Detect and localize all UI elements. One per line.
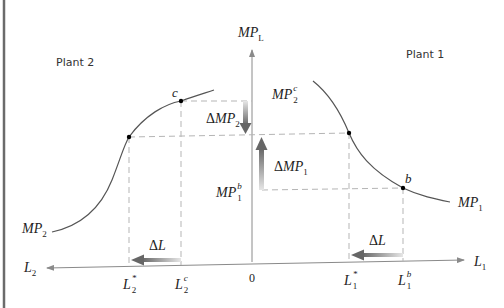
point-c bbox=[179, 99, 183, 103]
origin-label: 0 bbox=[249, 272, 255, 284]
l2-star-tick-label: L*2 bbox=[123, 278, 139, 292]
l1-star-tick-label: L*1 bbox=[344, 274, 360, 288]
vertical-axis-label: MPL bbox=[238, 26, 264, 43]
mp1-curve-label: MP1 bbox=[458, 196, 483, 213]
diagram-graphics bbox=[0, 0, 504, 308]
horizontal-axis-left bbox=[47, 264, 252, 268]
point-b-label: b bbox=[405, 172, 412, 185]
delta-mp1-label: ΔMP1 bbox=[274, 160, 308, 177]
delta-mp1-arrow bbox=[256, 137, 268, 190]
l1-axis-label: L1 bbox=[474, 255, 486, 272]
point-c-label: c bbox=[172, 86, 178, 99]
delta-l-right-arrow bbox=[351, 250, 403, 261]
plant-1-label: Plant 1 bbox=[406, 49, 444, 60]
l2-axis-label: L2 bbox=[24, 261, 36, 278]
l2-c-tick-label: Lc2 bbox=[175, 278, 191, 292]
mp2-curve-label: MP2 bbox=[22, 222, 47, 239]
delta-l-left-arrow bbox=[131, 255, 181, 266]
point-b bbox=[401, 186, 405, 190]
dashed-guides bbox=[129, 101, 403, 266]
mp1b-value-label: MPb1 bbox=[216, 186, 244, 200]
mp1-curve bbox=[313, 81, 450, 202]
delta-mp2-label: ΔMP2 bbox=[206, 112, 240, 129]
mp2c-value-label: MPc2 bbox=[272, 88, 300, 102]
point-right-equilibrium bbox=[347, 131, 351, 135]
horizontal-axis-right bbox=[252, 260, 464, 264]
plant-2-label: Plant 2 bbox=[56, 57, 94, 68]
point-left-equilibrium bbox=[127, 135, 131, 139]
delta-l-right-label: ΔL bbox=[369, 234, 386, 248]
l1-b-tick-label: Lb1 bbox=[398, 274, 414, 288]
mp2-curve bbox=[52, 90, 214, 232]
delta-mp2-arrow bbox=[240, 101, 252, 134]
diagram-canvas: Plant 2 Plant 1 MPL 0 L1 L2 MP2 MP1 c b … bbox=[0, 0, 504, 308]
delta-l-left-label: ΔL bbox=[149, 239, 166, 253]
